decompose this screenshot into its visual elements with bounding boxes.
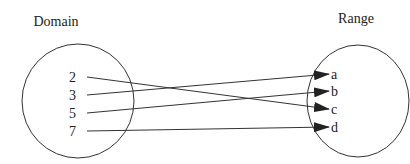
mapping-arrow-2-to-c [87, 77, 329, 109]
range-circle [307, 45, 409, 157]
domain-title: Domain [33, 14, 78, 29]
domain-element-2: 2 [69, 70, 76, 85]
range-element-d: d [331, 120, 338, 135]
range-element-b: b [331, 84, 338, 99]
mapping-arrow-5-to-b [87, 91, 329, 113]
mapping-arrow-7-to-d [87, 127, 329, 131]
range-title: Range [338, 11, 374, 26]
range-element-a: a [331, 67, 338, 82]
range-element-c: c [331, 102, 337, 117]
domain-element-5: 5 [69, 106, 76, 121]
domain-range-mapping-diagram: Domain Range 2357 abcd [0, 0, 410, 164]
domain-element-3: 3 [69, 88, 76, 103]
domain-element-7: 7 [69, 124, 76, 139]
mapping-arrow-3-to-a [87, 74, 329, 95]
domain-circle [22, 44, 134, 158]
